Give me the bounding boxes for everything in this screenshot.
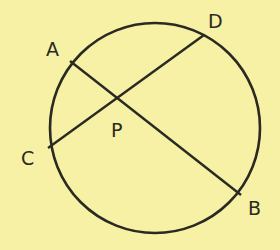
label-d: D [208,10,223,32]
chord-cd [48,35,204,148]
label-b: B [248,197,261,219]
label-c: C [21,147,34,169]
chord-ab [70,61,241,195]
chord-diagram: A B C D P [0,0,280,250]
label-a: A [46,38,59,60]
diagram-svg: A B C D P [0,0,280,250]
label-p: P [111,119,122,141]
